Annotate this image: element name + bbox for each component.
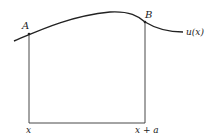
label-x-left: x (26, 125, 31, 135)
label-curve: u(x) (186, 27, 204, 37)
label-x-right: x + a (135, 125, 159, 135)
point-b-dot (144, 21, 147, 24)
label-point-b: B (144, 9, 152, 20)
curve-u-of-x (14, 12, 183, 41)
point-a-dot (28, 33, 31, 36)
diagram-canvas: A B u(x) x x + a (0, 0, 217, 140)
label-point-a: A (21, 20, 29, 31)
